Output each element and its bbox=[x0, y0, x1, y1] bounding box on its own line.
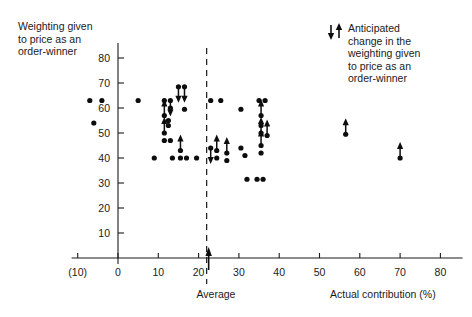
x-tick-label: (10) bbox=[68, 266, 87, 278]
data-point bbox=[262, 98, 267, 103]
data-point bbox=[91, 120, 96, 125]
data-point bbox=[178, 155, 183, 160]
data-point-up-arrow-icon bbox=[397, 142, 403, 157]
y-tick-label: 30 bbox=[98, 177, 110, 189]
y-tick-label: 80 bbox=[98, 52, 110, 64]
x-tick-label: 30 bbox=[233, 266, 245, 278]
data-point bbox=[194, 155, 199, 160]
y-tick-label: 40 bbox=[98, 152, 110, 164]
scatter-plot: (10)010203040506070801020304050607080 bbox=[0, 0, 472, 317]
data-point bbox=[87, 98, 92, 103]
data-points-group bbox=[87, 84, 403, 182]
arrow-head bbox=[177, 135, 183, 142]
data-point-down-arrow-icon bbox=[181, 88, 187, 103]
data-point bbox=[238, 107, 243, 112]
y-tick-label: 20 bbox=[98, 202, 110, 214]
y-tick-label: 10 bbox=[98, 227, 110, 239]
data-point bbox=[265, 133, 270, 138]
arrow-head bbox=[208, 157, 214, 164]
data-point-up-arrow-icon bbox=[224, 137, 230, 152]
data-point bbox=[178, 148, 183, 153]
data-point bbox=[343, 132, 348, 137]
data-point bbox=[244, 177, 249, 182]
x-tick-label: 20 bbox=[193, 266, 205, 278]
legend-arrow-head bbox=[336, 23, 342, 30]
data-point bbox=[168, 138, 173, 143]
x-tick-label: 60 bbox=[354, 266, 366, 278]
data-point bbox=[218, 98, 223, 103]
data-point bbox=[182, 107, 187, 112]
data-point bbox=[398, 155, 403, 160]
legend-arrow-head bbox=[328, 33, 334, 40]
arrow-head bbox=[175, 96, 181, 103]
x-tick-label: 10 bbox=[152, 266, 164, 278]
data-point bbox=[170, 155, 175, 160]
data-point bbox=[258, 150, 263, 155]
data-point bbox=[214, 155, 219, 160]
data-point bbox=[182, 84, 187, 89]
x-tick-label: 40 bbox=[273, 266, 285, 278]
data-point bbox=[162, 138, 167, 143]
data-point bbox=[168, 105, 173, 110]
arrow-head bbox=[214, 135, 220, 142]
data-point bbox=[242, 153, 247, 158]
y-tick-label: 50 bbox=[98, 127, 110, 139]
arrow-head bbox=[224, 137, 230, 144]
data-point-down-arrow-icon bbox=[208, 149, 214, 164]
data-point bbox=[208, 98, 213, 103]
arrow-head bbox=[343, 118, 349, 125]
data-point bbox=[254, 177, 259, 182]
data-point-up-arrow-icon bbox=[264, 120, 270, 135]
x-tick-label: 0 bbox=[115, 266, 121, 278]
data-point-up-arrow-icon bbox=[343, 118, 349, 133]
data-point bbox=[208, 145, 213, 150]
arrow-head bbox=[258, 117, 264, 124]
axes-group: (10)010203040506070801020304050607080 bbox=[68, 43, 462, 284]
data-point bbox=[176, 84, 181, 89]
data-point-down-arrow-icon bbox=[175, 88, 181, 103]
y-tick-label: 60 bbox=[98, 102, 110, 114]
arrow-head bbox=[397, 142, 403, 149]
data-point bbox=[99, 98, 104, 103]
data-point bbox=[152, 155, 157, 160]
data-point bbox=[214, 148, 219, 153]
data-point bbox=[224, 158, 229, 163]
chart-root: Weighting given to price as an order-win… bbox=[0, 0, 472, 317]
data-point bbox=[238, 145, 243, 150]
data-point bbox=[258, 143, 263, 148]
legend-down-arrow-icon bbox=[328, 25, 334, 40]
data-point bbox=[260, 177, 265, 182]
data-point bbox=[168, 98, 173, 103]
data-point bbox=[162, 130, 167, 135]
data-point bbox=[136, 98, 141, 103]
legend-markers bbox=[328, 23, 342, 40]
arrow-head bbox=[264, 120, 270, 127]
legend-up-arrow-icon bbox=[336, 23, 342, 38]
data-point-up-arrow-icon bbox=[214, 135, 220, 150]
data-point-up-arrow-icon bbox=[177, 135, 183, 150]
data-point bbox=[224, 150, 229, 155]
data-point bbox=[184, 155, 189, 160]
x-tick-label: 50 bbox=[314, 266, 326, 278]
x-tick-label: 70 bbox=[394, 266, 406, 278]
y-tick-label: 70 bbox=[98, 77, 110, 89]
x-tick-label: 80 bbox=[435, 266, 447, 278]
arrow-head bbox=[181, 96, 187, 103]
